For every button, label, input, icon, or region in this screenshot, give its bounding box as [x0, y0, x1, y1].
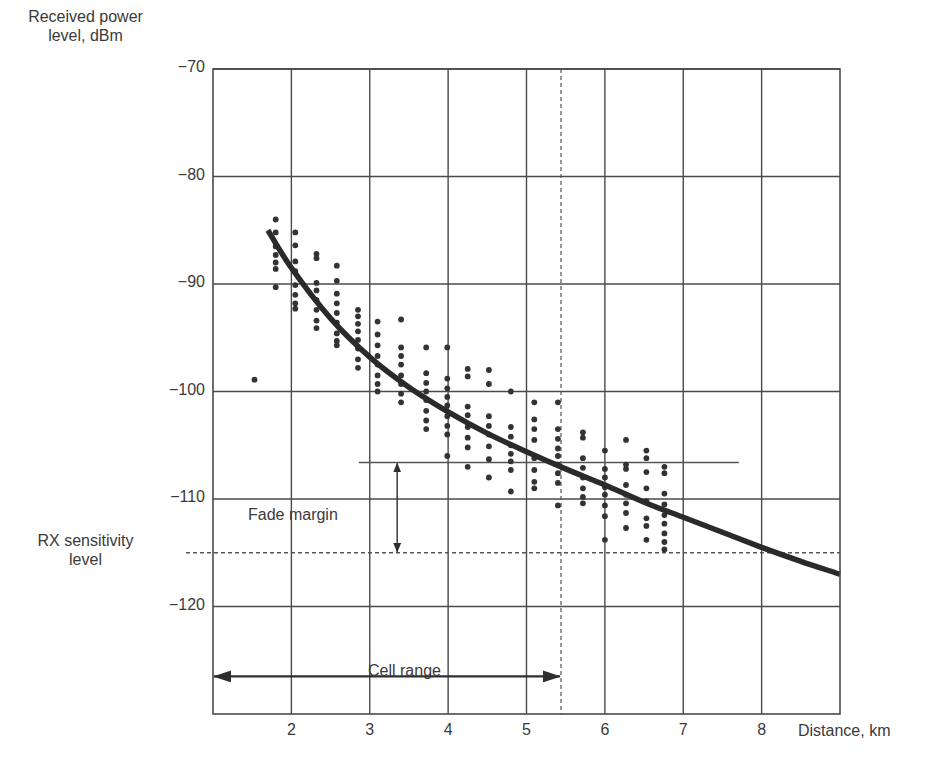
data-point	[486, 475, 492, 481]
x-tick-label: 8	[752, 721, 772, 739]
data-point	[273, 252, 279, 258]
x-tick-label: 7	[673, 721, 693, 739]
data-point	[334, 291, 340, 297]
data-point	[644, 455, 650, 461]
data-point	[602, 475, 608, 481]
data-point	[602, 466, 608, 472]
data-point	[508, 434, 514, 440]
data-point	[623, 482, 629, 488]
data-point	[580, 465, 586, 471]
rx-sensitivity-label-line1: RX sensitivity	[8, 531, 163, 550]
data-point	[355, 321, 361, 327]
data-point	[555, 436, 561, 442]
data-point	[602, 503, 608, 509]
data-point	[423, 370, 429, 376]
y-axis-label-line2: level, dBm	[8, 26, 163, 45]
data-point	[531, 399, 537, 405]
data-point	[423, 345, 429, 351]
data-point	[292, 259, 298, 265]
y-tick-label: −120	[169, 596, 205, 614]
data-point	[292, 230, 298, 236]
data-point	[314, 255, 320, 261]
data-point	[375, 389, 381, 395]
data-point	[444, 394, 450, 400]
data-point	[423, 426, 429, 432]
y-axis-label: Received power level, dBm	[8, 7, 163, 45]
data-point	[644, 485, 650, 491]
data-point	[375, 353, 381, 359]
data-point	[486, 443, 492, 449]
data-point	[252, 377, 258, 383]
data-point	[486, 413, 492, 419]
data-point	[644, 469, 650, 475]
data-point	[623, 437, 629, 443]
data-point	[292, 306, 298, 312]
data-point	[531, 485, 537, 491]
data-point	[644, 537, 650, 543]
data-point	[355, 365, 361, 371]
data-point	[662, 547, 668, 553]
y-tick-label: −80	[178, 166, 205, 184]
data-point	[314, 325, 320, 331]
data-point	[355, 328, 361, 334]
data-point	[444, 376, 450, 382]
data-point	[398, 362, 404, 368]
data-point	[292, 300, 298, 306]
y-axis-label-line1: Received power	[8, 7, 163, 26]
data-point	[465, 374, 471, 380]
data-point	[508, 489, 514, 495]
data-point	[623, 466, 629, 472]
data-point	[555, 503, 561, 509]
data-point	[444, 432, 450, 438]
data-point	[423, 380, 429, 386]
data-point	[580, 435, 586, 441]
data-point	[334, 278, 340, 284]
data-point	[314, 318, 320, 324]
data-point	[555, 399, 561, 405]
data-point	[273, 266, 279, 272]
data-point	[444, 385, 450, 391]
data-point	[486, 456, 492, 462]
data-point	[623, 500, 629, 506]
data-point	[423, 408, 429, 414]
data-point	[334, 300, 340, 306]
data-point	[465, 366, 471, 372]
data-point	[531, 437, 537, 443]
data-point	[531, 417, 537, 423]
data-point	[662, 521, 668, 527]
data-point	[508, 467, 514, 473]
data-point	[355, 313, 361, 319]
data-point	[662, 531, 668, 537]
data-point	[465, 404, 471, 410]
data-point	[334, 310, 340, 316]
data-point	[508, 424, 514, 430]
data-point	[292, 242, 298, 248]
data-point	[486, 381, 492, 387]
data-point	[273, 230, 279, 236]
data-point	[531, 426, 537, 432]
data-point	[580, 494, 586, 500]
data-point	[465, 435, 471, 441]
data-point	[375, 319, 381, 325]
data-point	[465, 445, 471, 451]
chart-canvas	[0, 0, 951, 770]
data-point	[444, 345, 450, 351]
data-point	[644, 448, 650, 454]
rx-sensitivity-label-line2: level	[8, 550, 163, 569]
data-point	[602, 537, 608, 543]
data-point	[580, 455, 586, 461]
x-tick-label: 2	[281, 721, 301, 739]
data-point	[398, 345, 404, 351]
data-point	[273, 260, 279, 266]
data-point	[273, 284, 279, 290]
x-tick-label: 6	[595, 721, 615, 739]
path-loss-curve-line	[268, 230, 840, 574]
data-point	[375, 342, 381, 348]
data-point	[555, 480, 561, 486]
data-point	[398, 317, 404, 323]
data-point	[623, 510, 629, 516]
data-point	[444, 423, 450, 429]
data-point	[508, 459, 514, 465]
data-point	[623, 525, 629, 531]
data-point	[662, 491, 668, 497]
